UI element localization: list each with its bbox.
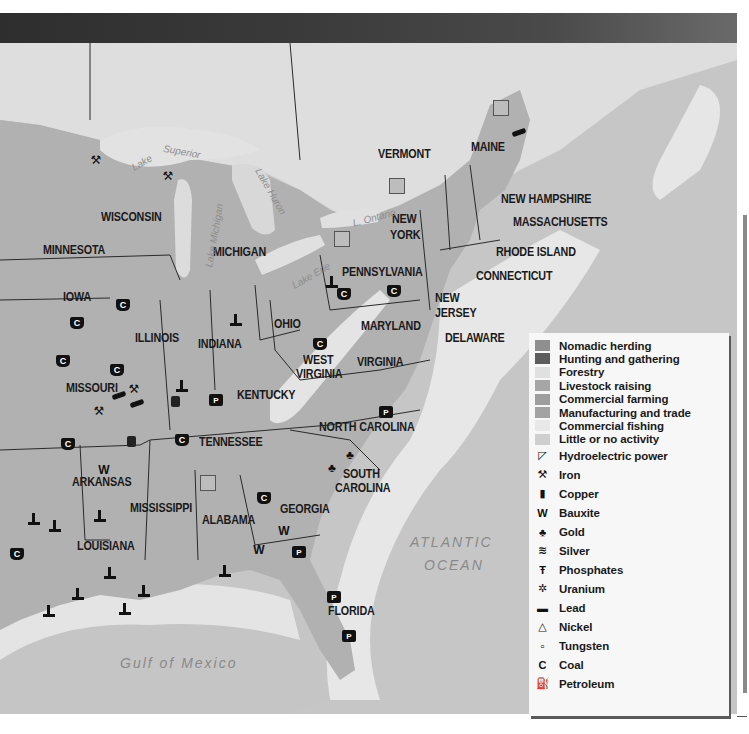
- state-label: VERMONT: [378, 148, 431, 161]
- bauxite-icon: W: [535, 506, 550, 519]
- legend-swatch: [535, 420, 550, 431]
- copper-icon: [171, 396, 180, 407]
- legend-label: Nomadic herding: [559, 340, 651, 352]
- state-label: SOUTH: [343, 468, 380, 481]
- legend-item: Little or no activity: [535, 433, 659, 446]
- coal-icon: C: [535, 658, 550, 671]
- legend-item: CCoal: [535, 658, 584, 671]
- legend-label: Nickel: [559, 621, 592, 633]
- state-label: YORK: [390, 229, 420, 242]
- legend-item: ♣Gold: [535, 525, 585, 538]
- legend-label: Bauxite: [559, 507, 600, 519]
- legend-item: ⚒Iron: [535, 468, 580, 481]
- gold-icon: ♣: [325, 462, 339, 474]
- state-label: VIRGINIA: [357, 356, 403, 369]
- state-label: MISSISSIPPI: [130, 502, 192, 515]
- header-bar: [0, 13, 737, 43]
- legend-label: Commercial fishing: [559, 420, 664, 432]
- legend-item: ▮Copper: [535, 487, 599, 500]
- water-body-label: Gulf of Mexico: [120, 655, 237, 671]
- legend-label: Forestry: [559, 366, 604, 378]
- state-label: MAINE: [471, 141, 505, 154]
- phosphate-icon: P: [327, 591, 341, 603]
- coal-icon: C: [116, 299, 130, 311]
- legend-item: ⛽Petroleum: [535, 677, 614, 690]
- phosphate-icon: P: [209, 394, 223, 406]
- iron-icon: ⚒: [161, 170, 175, 182]
- state-label: FLORIDA: [328, 605, 375, 618]
- gold-icon: ♣: [535, 525, 550, 538]
- copper-icon: ▮: [535, 487, 550, 500]
- iron-icon: ⚒: [535, 468, 550, 481]
- state-label: MICHIGAN: [213, 246, 266, 259]
- state-label: WEST: [303, 354, 333, 367]
- uranium-icon: ✲: [535, 582, 550, 595]
- state-label: NORTH CAROLINA: [319, 421, 415, 434]
- state-label: MISSOURI: [66, 382, 118, 395]
- legend-swatch: [535, 394, 550, 405]
- legend-item: ✲Uranium: [535, 582, 605, 595]
- bauxite-icon: W: [277, 525, 291, 537]
- coal-icon: C: [175, 434, 189, 446]
- petroleum-icon: ⛽: [535, 677, 550, 690]
- legend-item: ŦPhosphates: [535, 563, 623, 576]
- petroleum-icon: [93, 510, 107, 522]
- petroleum-icon: [27, 513, 41, 525]
- legend-item: Commercial fishing: [535, 419, 664, 432]
- coal-icon: C: [70, 317, 84, 329]
- nickel-icon: △: [535, 620, 550, 633]
- bauxite-icon: W: [97, 464, 111, 476]
- coal-icon: C: [56, 355, 70, 367]
- phosphates-icon: Ŧ: [535, 563, 550, 576]
- state-label: CONNECTICUT: [476, 270, 552, 283]
- state-label: OHIO: [274, 318, 301, 331]
- legend-item: ▫Tungsten: [535, 639, 609, 652]
- legend-label: Petroleum: [559, 678, 614, 690]
- legend-label: Copper: [559, 488, 599, 500]
- hydroelectric-icon: ◸: [535, 449, 550, 462]
- petroleum-icon: [71, 588, 85, 600]
- petroleum-icon: [42, 605, 56, 617]
- silver-icon: ≋: [535, 544, 550, 557]
- iron-icon: ⚒: [92, 405, 106, 417]
- petroleum-icon: [175, 380, 189, 392]
- state-label: INDIANA: [198, 338, 242, 351]
- gold-icon: ♣: [343, 449, 357, 461]
- state-label: MASSACHUSETTS: [513, 216, 608, 229]
- legend-item: Livestock raising: [535, 379, 651, 392]
- hydro-icon: [389, 178, 405, 194]
- hydro-icon: [493, 100, 509, 116]
- legend-label: Commercial farming: [559, 393, 668, 405]
- phosphate-icon: P: [292, 546, 306, 558]
- petroleum-icon: [118, 603, 132, 615]
- petroleum-icon: [218, 565, 232, 577]
- legend-item: △Nickel: [535, 620, 592, 633]
- page-side-bar: [743, 215, 747, 693]
- state-label: CAROLINA: [335, 482, 390, 495]
- state-label: MINNESOTA: [43, 244, 105, 257]
- legend-swatch: [535, 353, 550, 364]
- legend-item: ▬Lead: [535, 601, 585, 614]
- state-label: NEW: [435, 292, 460, 305]
- phosphate-icon: P: [379, 406, 393, 418]
- legend-label: Lead: [559, 602, 585, 614]
- state-label: ILLINOIS: [135, 332, 179, 345]
- state-label: MARYLAND: [361, 320, 421, 333]
- legend-label: Manufacturing and trade: [559, 407, 691, 419]
- state-label: LOUISIANA: [77, 540, 135, 553]
- state-label: WISCONSIN: [101, 211, 162, 224]
- legend-label: Hunting and gathering: [559, 353, 680, 365]
- legend-item: Manufacturing and trade: [535, 406, 691, 419]
- coal-icon: C: [257, 492, 271, 504]
- coal-icon: C: [313, 338, 327, 350]
- legend-item: Hunting and gathering: [535, 352, 680, 365]
- water-body-label: ATLANTIC: [410, 534, 493, 550]
- petroleum-icon: [137, 585, 151, 597]
- state-label: JERSEY: [435, 307, 476, 320]
- hydro-icon: [334, 231, 350, 247]
- state-label: GEORGIA: [280, 503, 330, 516]
- hydro-icon: [200, 475, 216, 491]
- copper-icon: [127, 436, 136, 447]
- lead-icon: ▬: [535, 601, 550, 614]
- legend-item: Nomadic herding: [535, 339, 651, 352]
